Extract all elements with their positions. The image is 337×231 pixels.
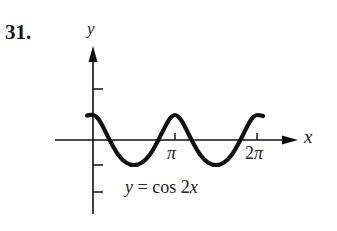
x-tick-label-2pi: 2π [245,143,263,164]
equation-y: y [125,177,133,197]
pi-symbol: π [254,143,263,163]
equation-x: x [190,177,198,197]
x-tick-label-pi: π [167,143,176,164]
x-axis-label: x [304,126,312,148]
equation-label: y = cos 2x [125,177,198,198]
y-axis-arrow-icon [89,46,98,62]
x-axis-arrow-icon [282,136,298,145]
two-coefficient: 2 [245,143,254,163]
y-axis-label: y [87,19,95,39]
equation-middle: = cos 2 [133,177,190,197]
